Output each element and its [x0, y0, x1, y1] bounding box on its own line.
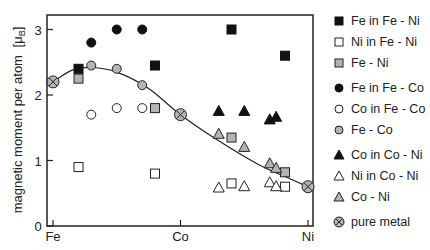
x-tick-label: Co: [172, 229, 189, 244]
data-point: [74, 64, 83, 73]
data-point: [151, 61, 160, 70]
data-point: [239, 105, 250, 115]
legend: Fe in Fe - Ni Ni in Fe - Ni Fe - Ni Fe i…: [332, 10, 430, 232]
data-point: [112, 25, 121, 34]
data-points: [47, 25, 314, 193]
open-square-icon: [332, 35, 346, 49]
legend-item: Co - Ni: [332, 186, 430, 207]
data-point: [74, 74, 83, 83]
legend-item: Fe in Fe - Ni: [332, 10, 430, 31]
gray-square-icon: [332, 56, 346, 70]
black-circle-icon: [332, 81, 346, 95]
legend-item: Fe in Fe - Co: [332, 77, 430, 98]
y-axis-ticks: 0123: [34, 23, 53, 235]
data-point: [281, 51, 290, 60]
y-axis-label: magnetic moment per atom [μB]: [10, 27, 27, 214]
legend-item: Co in Fe - Co: [332, 98, 430, 119]
open-circle-icon: [332, 102, 346, 116]
gray-triangle-icon: [332, 190, 346, 204]
data-point: [87, 110, 96, 119]
data-point: [281, 182, 290, 191]
data-point: [112, 64, 121, 73]
legend-item: Fe - Co: [332, 119, 430, 140]
y-tick-label: 3: [34, 23, 41, 38]
data-point: [239, 141, 250, 151]
legend-item: Ni in Co - Ni: [332, 165, 430, 186]
data-point: [213, 128, 224, 138]
data-point: [271, 111, 282, 121]
data-point: [87, 38, 96, 47]
data-point: [227, 179, 236, 188]
x-axis-ticks: FeCoNi: [45, 220, 314, 244]
black-square-icon: [332, 14, 346, 28]
data-point: [138, 104, 147, 113]
legend-item: Fe - Ni: [332, 52, 430, 73]
circled-times-icon: [332, 215, 346, 229]
data-point: [138, 25, 147, 34]
data-point: [151, 169, 160, 178]
y-tick-label: 0: [34, 219, 41, 234]
data-point: [87, 61, 96, 70]
y-axis-label-text: magnetic moment per atom: [10, 55, 25, 213]
svg-text:magnetic moment per atom: magnetic moment per atom [μB]: [10, 27, 27, 214]
data-point: [213, 105, 224, 115]
black-triangle-icon: [332, 148, 346, 162]
data-point: [112, 104, 121, 113]
y-tick-label: 2: [34, 88, 41, 103]
data-point: [239, 181, 250, 191]
data-point: [213, 182, 224, 192]
y-tick-label: 1: [34, 154, 41, 169]
data-point: [227, 25, 236, 34]
legend-item: Ni in Fe - Ni: [332, 31, 430, 52]
data-point: [138, 81, 147, 90]
slater-pauling-curve: [53, 67, 308, 186]
data-point: [227, 133, 236, 142]
x-tick-label: Fe: [45, 229, 60, 244]
legend-item: pure metal: [332, 211, 430, 232]
legend-item: Co in Co - Ni: [332, 144, 430, 165]
x-tick-label: Ni: [302, 229, 314, 244]
data-point: [151, 104, 160, 113]
open-triangle-icon: [332, 169, 346, 183]
gray-circle-icon: [332, 123, 346, 137]
data-point: [74, 163, 83, 172]
